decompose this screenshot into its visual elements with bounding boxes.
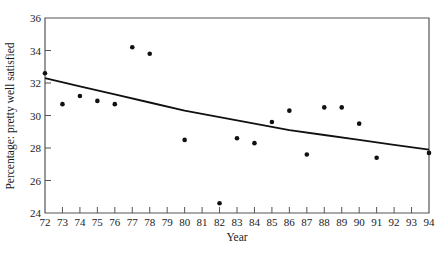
x-tick-label: 89: [336, 216, 348, 228]
data-point: [357, 121, 362, 126]
y-tick-label: 34: [30, 45, 42, 57]
y-tick-label: 28: [30, 142, 42, 154]
x-tick-label: 86: [284, 216, 296, 228]
x-tick-label: 93: [406, 216, 418, 228]
x-tick-label: 80: [179, 216, 191, 228]
scatter-chart: 7273747576777879808182838485868788899091…: [0, 0, 444, 253]
data-point: [305, 152, 310, 157]
data-point: [113, 102, 118, 107]
y-axis-title: Percentage: pretty well satisfied: [4, 42, 17, 189]
data-point: [130, 45, 135, 50]
x-tick-label: 90: [354, 216, 366, 228]
data-point: [374, 155, 379, 160]
data-point: [95, 99, 100, 104]
x-tick-label: 82: [214, 216, 225, 228]
x-tick-label: 73: [57, 216, 69, 228]
x-tick-label: 91: [371, 216, 382, 228]
x-tick-label: 81: [197, 216, 208, 228]
x-tick-label: 79: [162, 216, 174, 228]
x-tick-label: 92: [389, 216, 400, 228]
y-tick-label: 36: [30, 12, 42, 24]
x-tick-label: 88: [319, 216, 331, 228]
data-point: [270, 120, 275, 125]
data-point: [427, 151, 432, 156]
y-tick-label: 24: [30, 207, 42, 219]
x-tick-label: 74: [74, 216, 86, 228]
x-tick-label: 94: [424, 216, 436, 228]
data-points: [43, 45, 432, 206]
x-axis-title: Year: [226, 231, 247, 243]
x-tick-label: 76: [109, 216, 121, 228]
x-tick-label: 78: [144, 216, 156, 228]
x-tick-label: 83: [232, 216, 244, 228]
y-tick-label: 30: [30, 110, 42, 122]
x-tick-label: 85: [266, 216, 278, 228]
data-point: [43, 71, 48, 76]
y-tick-label: 32: [30, 77, 41, 89]
x-tick-label: 87: [301, 216, 313, 228]
x-tick-label: 75: [92, 216, 104, 228]
data-point: [322, 105, 327, 110]
x-tick-label: 72: [40, 216, 51, 228]
data-point: [252, 141, 257, 146]
x-tick-label: 77: [127, 216, 139, 228]
data-point: [287, 108, 292, 113]
data-point: [235, 136, 240, 141]
data-point: [339, 105, 344, 110]
data-point: [147, 51, 152, 56]
plot-frame: [45, 18, 429, 213]
data-point: [182, 138, 187, 143]
y-tick-label: 26: [30, 175, 42, 187]
data-point: [78, 94, 83, 99]
x-tick-label: 84: [249, 216, 261, 228]
data-point: [217, 201, 222, 206]
data-point: [60, 102, 65, 107]
